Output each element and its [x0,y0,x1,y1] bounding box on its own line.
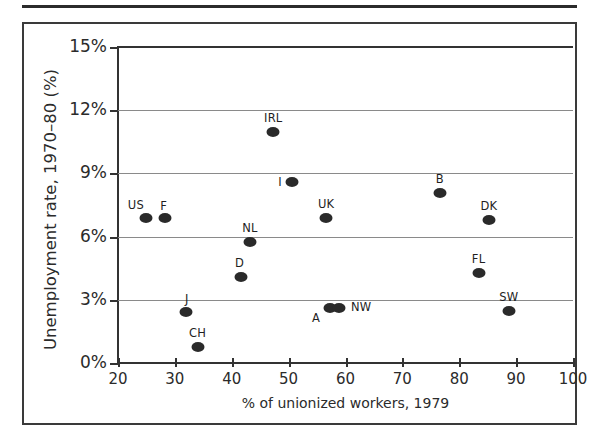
gridline [118,237,573,238]
x-tick-mark [175,358,177,367]
y-tick-mark [110,173,118,175]
scatter-label-b: B [436,172,444,186]
y-tick-mark [110,363,118,365]
x-tick-label: 50 [269,370,309,388]
x-tick-label: 100 [553,370,593,388]
scatter-point-ch [191,342,204,352]
gridline [118,173,573,174]
x-tick-mark [573,358,575,367]
scatter-point-nw [333,303,346,313]
x-axis-title: % of unionized workers, 1979 [118,395,573,411]
scatter-point-sw [502,306,515,316]
scatter-label-i: I [278,175,282,189]
scatter-point-dk [482,215,495,225]
scatter-label-sw: SW [499,290,518,304]
x-tick-label: 20 [98,370,138,388]
x-tick-label: 30 [155,370,195,388]
x-tick-label: 60 [326,370,366,388]
scatter-point-uk [320,213,333,223]
y-tick-label: 15% [55,36,107,56]
y-tick-mark [110,300,118,302]
y-axis-title: Unemployment rate, 1970–80 (%) [41,50,60,370]
scatter-label-nl: NL [242,221,257,235]
scatter-point-b [433,188,446,198]
y-axis-line [117,46,119,365]
x-tick-label: 70 [382,370,422,388]
scatter-chart: 0%3%6%9%12%15% 2030405060708090100 USFJC… [0,0,599,447]
x-tick-mark [346,358,348,367]
scatter-point-d [235,272,248,282]
y-tick-label: 9% [55,162,107,182]
x-tick-mark [516,358,518,367]
x-tick-mark [402,358,404,367]
y-tick-mark [110,237,118,239]
x-tick-mark [459,358,461,367]
scatter-label-dk: DK [480,199,497,213]
scatter-point-j [179,307,192,317]
scatter-label-j: J [185,292,189,306]
scatter-point-irl [267,127,280,137]
scatter-point-i [286,177,299,187]
scatter-point-nl [243,237,256,247]
x-tick-label: 90 [496,370,536,388]
y-tick-mark [110,47,118,49]
x-tick-mark [232,358,234,367]
scatter-label-a: A [312,311,320,325]
scatter-point-f [158,213,171,223]
scatter-label-us: US [128,198,144,212]
y-tick-label: 6% [55,226,107,246]
scatter-label-d: D [235,256,244,270]
x-tick-mark [289,358,291,367]
x-tick-label: 40 [212,370,252,388]
x-tick-label: 80 [439,370,479,388]
x-axis-line [117,362,573,364]
gridline [118,110,573,111]
scatter-label-nw: NW [351,300,371,314]
y-tick-mark [110,110,118,112]
scatter-label-ch: CH [189,326,206,340]
x-tick-mark [118,358,120,367]
scatter-point-fl [472,268,485,278]
scatter-label-f: F [160,199,167,213]
y-tick-label: 3% [55,289,107,309]
plot-top-border [117,46,573,48]
scatter-label-uk: UK [318,197,334,211]
scatter-label-irl: IRL [264,111,282,125]
scatter-label-fl: FL [472,252,485,266]
y-tick-label: 0% [55,352,107,372]
y-tick-label: 12% [55,99,107,119]
scatter-point-us [139,213,152,223]
